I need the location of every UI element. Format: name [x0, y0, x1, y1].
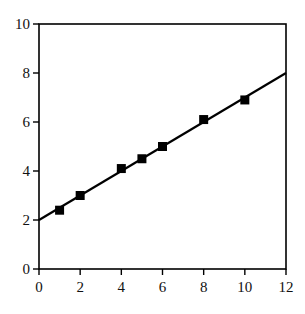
y-tick-label: 2 — [23, 212, 31, 228]
y-tick-label: 10 — [15, 16, 30, 32]
square-marker — [117, 164, 126, 173]
x-tick-label: 2 — [76, 279, 84, 295]
square-marker — [199, 115, 208, 124]
square-marker — [240, 95, 249, 104]
square-marker — [76, 191, 85, 200]
square-marker — [137, 154, 146, 163]
y-tick-label: 8 — [23, 65, 31, 81]
x-tick-label: 8 — [200, 279, 208, 295]
x-axis: 024681012 — [35, 269, 293, 295]
y-axis: 0246810 — [15, 16, 39, 277]
x-tick-label: 10 — [237, 279, 252, 295]
square-marker — [55, 206, 64, 215]
x-tick-label: 12 — [279, 279, 294, 295]
y-tick-label: 6 — [23, 114, 31, 130]
x-tick-label: 4 — [118, 279, 126, 295]
y-tick-label: 0 — [23, 261, 31, 277]
x-tick-label: 0 — [35, 279, 43, 295]
square-marker — [158, 142, 167, 151]
y-tick-label: 4 — [23, 163, 31, 179]
x-tick-label: 6 — [159, 279, 167, 295]
line-fit-chart: 0246810 024681012 — [0, 0, 305, 314]
